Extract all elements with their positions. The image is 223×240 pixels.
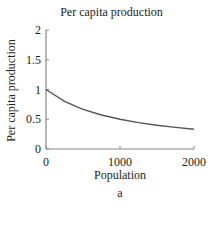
x-tick-label: 1000: [108, 155, 132, 169]
y-tick-label: 0.5: [26, 112, 41, 126]
x-tick-label: 0: [43, 155, 49, 169]
x-axis-label: Population: [46, 168, 194, 183]
y-tick-label: 1.5: [26, 53, 41, 67]
y-tick-label: 2: [35, 23, 41, 37]
y-tick-label: 0: [35, 142, 41, 156]
x-tick-label: 2000: [182, 155, 206, 169]
axes: [46, 30, 194, 149]
data-line: [46, 90, 194, 130]
panel-label: a: [46, 186, 194, 201]
y-tick-label: 1: [35, 83, 41, 97]
